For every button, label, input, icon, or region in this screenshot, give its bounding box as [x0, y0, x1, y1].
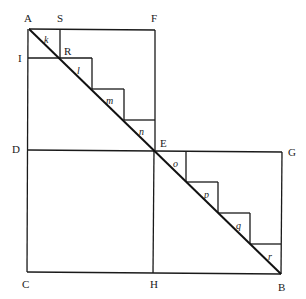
label-f: F [151, 12, 157, 24]
line-eh [153, 150, 154, 273]
label-r-italic: r [268, 251, 272, 262]
label-c: C [22, 278, 29, 290]
label-d: D [12, 143, 20, 155]
label-a: A [24, 12, 32, 24]
line-gb [281, 152, 282, 274]
label-b: B [278, 281, 285, 293]
label-e: E [160, 137, 167, 149]
label-i: I [18, 52, 22, 64]
label-r: R [64, 45, 72, 57]
lower-staircase [186, 151, 281, 244]
label-o: o [173, 158, 178, 169]
label-q: q [236, 220, 241, 231]
label-n: n [139, 126, 144, 137]
label-h: H [150, 278, 158, 290]
side-cb [27, 272, 281, 274]
label-g: G [288, 146, 296, 158]
label-s: S [57, 12, 63, 24]
label-p: p [203, 189, 209, 200]
label-k: k [44, 34, 49, 45]
label-m: m [106, 95, 113, 106]
geometry-diagram: A S F I R D E G C H B k l m n o p q r [0, 0, 306, 299]
side-ac [27, 29, 28, 272]
label-l: l [77, 65, 80, 76]
